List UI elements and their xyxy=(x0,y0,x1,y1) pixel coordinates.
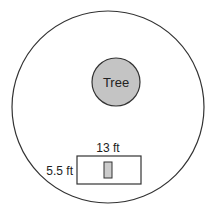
garden-diagram: Tree 13 ft 5.5 ft xyxy=(0,0,215,223)
width-label: 13 ft xyxy=(96,141,120,155)
tree-label: Tree xyxy=(103,75,129,90)
height-label: 5.5 ft xyxy=(46,164,73,178)
tree: Tree xyxy=(92,58,140,106)
inner-rectangle xyxy=(104,162,112,178)
